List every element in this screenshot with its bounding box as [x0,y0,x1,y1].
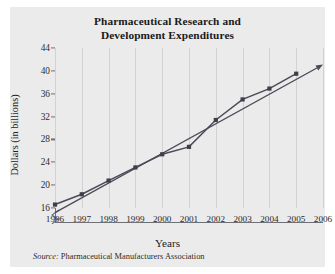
data-point-1996 [53,202,57,206]
x-tick-label-2003: 2003 [233,214,251,224]
source-text: Pharmaceutical Manufacturers Association [59,252,205,261]
y-tick-label-32: 32 [41,112,50,122]
x-tick-label-1999: 1999 [126,214,144,224]
x-tick-label-1998: 1998 [99,214,117,224]
gridline-v-2006 [323,48,324,208]
y-tick-label-40: 40 [41,66,50,76]
data-point-1999 [133,165,137,169]
y-tick-label-36: 36 [41,89,50,99]
chart-title: Pharmaceutical Research and Development … [10,15,325,42]
x-tick-label-2004: 2004 [260,214,278,224]
data-point-1997 [80,192,84,196]
y-tick-label-24: 24 [41,157,50,167]
source-label: Source: [33,252,59,261]
x-tick-label-2005: 2005 [287,214,305,224]
x-tick-label-1996: 1996 [46,214,64,224]
data-point-2000 [160,152,164,156]
x-tick-label-2000: 2000 [153,214,171,224]
data-point-2004 [267,86,271,90]
data-point-2003 [241,97,245,101]
chart-title-line-2: Development Expenditures [10,29,325,43]
trend-line [55,68,317,213]
source-note: Source: Pharmaceutical Manufacturers Ass… [33,252,205,261]
x-axis-label: Years [10,237,325,249]
plot-area: 1620242832364044 19961997199819992000200… [55,48,323,208]
y-tick-label-16: 16 [41,203,50,213]
y-tick-label-28: 28 [41,134,50,144]
x-tick-label-2006: 2006 [314,214,332,224]
x-tick-label-2001: 2001 [180,214,198,224]
chart-figure: Pharmaceutical Research and Development … [10,7,325,267]
y-axis-label: Dollars (in billions) [9,94,20,175]
data-point-2002 [214,118,218,122]
y-tick-label-44: 44 [41,43,50,53]
data-point-2005 [294,72,298,76]
y-tick-label-20: 20 [41,180,50,190]
x-tick-label-2002: 2002 [207,214,225,224]
series-overlay [55,48,323,208]
chart-title-line-1: Pharmaceutical Research and [10,15,325,29]
data-point-1998 [107,178,111,182]
x-tick-label-1997: 1997 [73,214,91,224]
trend-line-arrowhead [316,65,323,71]
data-line [55,74,296,205]
data-point-2001 [187,145,191,149]
